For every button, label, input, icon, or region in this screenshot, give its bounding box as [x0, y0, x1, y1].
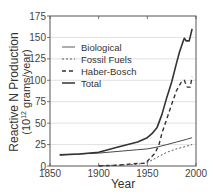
series-total: [60, 29, 192, 155]
x-tick-label: 2000: [185, 168, 208, 179]
legend-label-biological: Biological: [81, 42, 122, 53]
plot-frame: [50, 16, 196, 166]
y-tick-label: 25: [35, 139, 47, 150]
series-biological: [60, 138, 192, 155]
y-tick-label: 75: [35, 96, 47, 107]
y-axis-title: Reactive N Production (1012 grams/year): [7, 32, 32, 151]
x-axis-title: Year: [111, 177, 135, 191]
y-axis-title-line1: Reactive N Production: [7, 32, 21, 151]
legend-label-fossil-fuels: Fossil Fuels: [81, 54, 132, 65]
y-axis-title-line2: (1012 grams/year): [20, 49, 32, 134]
legend: Biological Fossil Fuels Haber-Bosch Tota…: [62, 42, 136, 89]
legend-label-total: Total: [81, 78, 101, 89]
x-tick-label: 1900: [88, 168, 111, 179]
series-haber-bosch: [99, 77, 192, 166]
y-axis-ticks: 0255075100125150175: [29, 11, 50, 172]
y-tick-label: 175: [29, 11, 46, 22]
data-series: [60, 29, 192, 166]
x-tick-label: 1850: [39, 168, 62, 179]
legend-label-haber-bosch: Haber-Bosch: [81, 66, 136, 77]
y-tick-label: 50: [35, 118, 47, 129]
y-tick-label: 150: [29, 32, 46, 43]
x-tick-label: 1950: [136, 168, 159, 179]
chart: 0255075100125150175 1850190019502000 Bio…: [0, 0, 213, 196]
